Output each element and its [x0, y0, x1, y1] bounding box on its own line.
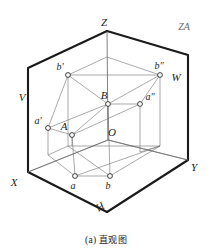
corner-note-label: ZA: [178, 21, 191, 32]
point-marker-a-dblprime: [138, 102, 143, 107]
plane-label-w: W: [171, 71, 181, 83]
point-label-a: a: [71, 180, 76, 191]
plane-label-v: V: [19, 91, 27, 103]
spatial-connectors: [48, 75, 160, 146]
point-marker-b-prime: [66, 73, 71, 78]
segment-AB: [72, 104, 108, 135]
h-line-a-left: [48, 155, 75, 176]
v-grid-top: [68, 57, 107, 75]
point-label-b-dblprime: b": [154, 60, 164, 71]
axis-labels: Z X Y: [10, 16, 199, 188]
caption-index: (a): [85, 235, 96, 245]
projection-diagram: Z X Y V W H A B O a' b' a" b" a b ZA: [0, 0, 212, 252]
point-marker-A: [70, 133, 75, 138]
point-marker-a: [73, 174, 78, 179]
h-plane-grid: [48, 146, 160, 176]
w-plane-outline: [107, 31, 188, 212]
figure-container: Z X Y V W H A B O a' b' a" b" a b ZA (a)…: [0, 0, 212, 252]
figure-caption: (a)直观图: [0, 233, 212, 246]
point-marker-B: [106, 102, 111, 107]
v-line-a-prime-to-A: [48, 104, 108, 128]
point-marker-b: [108, 174, 113, 179]
projector-A-to-a-dblprime: [72, 104, 140, 135]
point-label-b-prime: b': [56, 61, 64, 72]
vertical-projectors: [72, 104, 110, 176]
axis-label-y: Y: [191, 161, 199, 173]
h-line-b-diag: [68, 146, 110, 176]
point-label-b: b: [106, 180, 111, 191]
projector-A-to-a: [72, 135, 75, 176]
caption-text: 直观图: [99, 235, 127, 245]
point-label-A: A: [60, 120, 68, 132]
point-label-a-prime: a': [34, 115, 42, 126]
point-label-a-dblprime: a": [145, 91, 155, 102]
axis-label-x: X: [10, 176, 19, 188]
w-grid-top: [107, 57, 160, 75]
point-marker-a-prime: [46, 126, 51, 131]
point-label-O: O: [108, 126, 116, 138]
h-line-left-top: [48, 146, 68, 155]
axis-label-z: Z: [101, 16, 108, 28]
point-marker-b-dblprime: [158, 73, 163, 78]
point-label-B: B: [101, 89, 108, 101]
